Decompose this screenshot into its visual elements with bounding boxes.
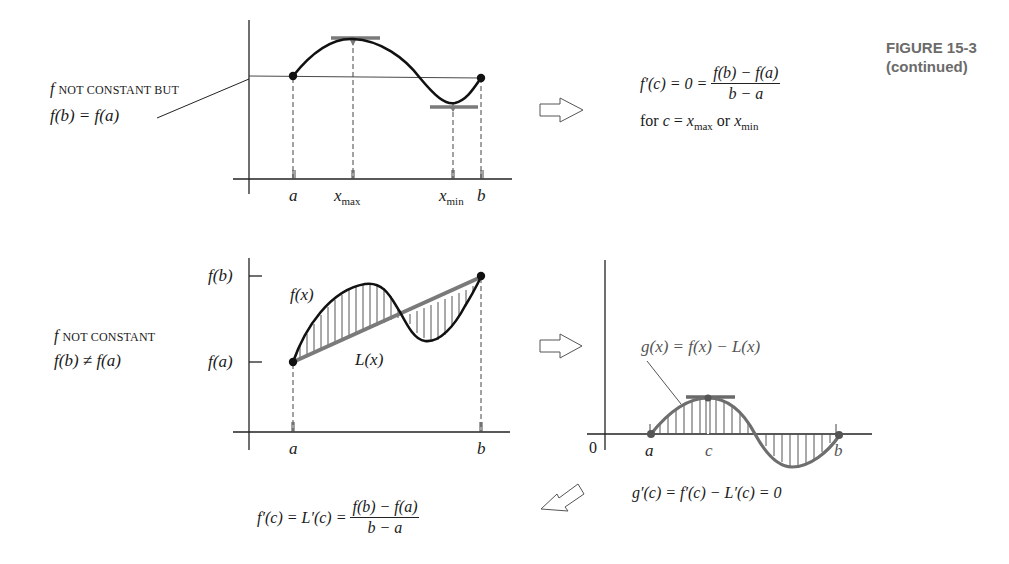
point-a — [289, 72, 297, 80]
g-curve — [651, 398, 839, 467]
g-axis-label-a: a — [645, 441, 654, 461]
top-panel-label-line2: f(b) = f(a) — [50, 106, 119, 126]
arrow-right-icon — [540, 98, 583, 122]
g-derivative-equation: g′(c) = f′(c) − L′(c) = 0 — [632, 484, 782, 502]
conclusion-equation: f′(c) = L′(c) = f(b) − f(a) b − a — [257, 498, 419, 537]
top-graph — [157, 20, 512, 194]
top-axis-label-xmin: xmin — [439, 186, 464, 207]
point-b — [477, 74, 485, 82]
bottom-axis-label-a: a — [289, 439, 298, 459]
top-axis-label-b: b — [477, 186, 486, 206]
bottom-panel-label-line1: f NOT CONSTANT — [54, 327, 155, 345]
y-label-fa: f(a) — [208, 352, 233, 372]
figure-continued: (continued) — [886, 57, 977, 76]
top-axis-label-a: a — [289, 186, 298, 206]
secant-label: L(x) — [355, 350, 383, 370]
f-curve-label: f(x) — [290, 285, 314, 305]
bottom-axis-label-b: b — [477, 439, 486, 459]
top-result-equation: f′(c) = 0 = f(b) − f(a) b − a — [640, 64, 780, 103]
g-axis-label-b: b — [834, 441, 843, 461]
g-axis-label-c: c — [705, 441, 713, 461]
arrow-right-icon — [540, 334, 582, 358]
figure-number: FIGURE 15-3 — [886, 38, 977, 57]
top-result-note: for c = xmax or xmin — [640, 112, 758, 132]
g-axis-label-zero: 0 — [589, 439, 597, 457]
top-panel-label-line1: f NOT CONSTANT BUT — [50, 80, 179, 98]
y-label-fb: f(b) — [208, 266, 233, 286]
g-curve-label: g(x) = f(x) − L(x) — [641, 337, 760, 357]
top-axis-label-xmax: xmax — [334, 186, 361, 207]
level-line — [249, 76, 481, 78]
top-curve — [293, 39, 481, 103]
arrow-down-left-icon — [541, 484, 584, 511]
bottom-panel-label-line2: f(b) ≠ f(a) — [54, 351, 121, 371]
g-graph — [587, 260, 872, 467]
figure-caption: FIGURE 15-3 (continued) — [886, 38, 977, 76]
